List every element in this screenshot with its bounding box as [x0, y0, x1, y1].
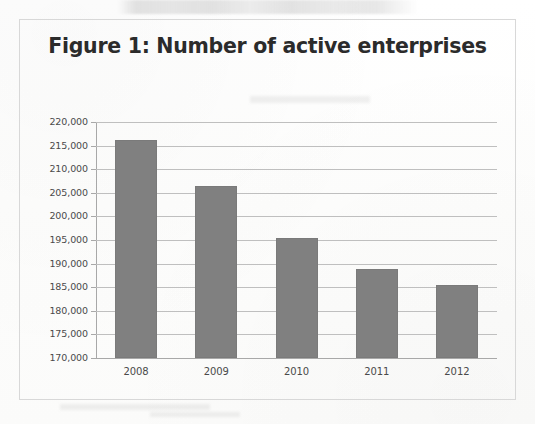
x-axis-tick-label: 2011: [337, 366, 417, 377]
bar-2011: [356, 269, 398, 358]
y-axis-tick-label: 170,000: [2, 352, 88, 363]
y-axis-tick-label: 205,000: [2, 187, 88, 198]
y-axis-tick-label: 175,000: [2, 328, 88, 339]
y-axis-tick-label: 190,000: [2, 258, 88, 269]
bar-2010: [276, 238, 318, 358]
y-axis-tick-label: 215,000: [2, 140, 88, 151]
y-axis-tick: [91, 216, 96, 217]
x-axis-tick-label: 2009: [176, 366, 256, 377]
scan-smudge: [150, 412, 240, 417]
figure-container: Figure 1: Number of active enterprises 2…: [0, 0, 535, 424]
y-axis-tick: [91, 146, 96, 147]
bar-2008: [115, 140, 157, 358]
chart-title: Figure 1: Number of active enterprises: [19, 34, 516, 58]
y-axis-tick: [91, 240, 96, 241]
y-axis-tick: [91, 264, 96, 265]
y-axis-tick: [91, 287, 96, 288]
y-axis-tick-label: 180,000: [2, 305, 88, 316]
bar-2009: [195, 186, 237, 358]
y-axis-tick-label: 195,000: [2, 234, 88, 245]
y-axis-tick-label: 200,000: [2, 210, 88, 221]
x-axis-tick-label: 2008: [96, 366, 176, 377]
x-axis-tick-label: 2012: [417, 366, 497, 377]
y-axis-tick-label: 185,000: [2, 281, 88, 292]
gridline: [96, 358, 497, 359]
y-axis-tick: [91, 358, 96, 359]
bar-2012: [436, 285, 478, 358]
y-axis-tick-label: 210,000: [2, 163, 88, 174]
y-axis-tick: [91, 122, 96, 123]
y-axis-tick-label: 220,000: [2, 116, 88, 127]
x-axis-tick-label: 2010: [257, 366, 337, 377]
plot-area: [96, 122, 497, 358]
y-axis-labels: 220,000215,000210,000205,000200,000195,0…: [0, 0, 88, 424]
y-axis-tick: [91, 311, 96, 312]
y-axis-tick: [91, 334, 96, 335]
y-axis-tick: [91, 193, 96, 194]
text-bleed-above-figure: [118, 0, 418, 14]
y-axis-tick: [91, 169, 96, 170]
gridline: [96, 122, 497, 123]
